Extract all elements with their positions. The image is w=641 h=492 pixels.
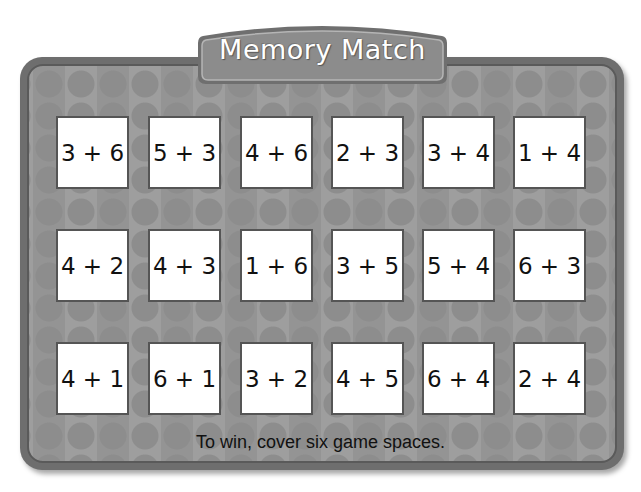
game-card[interactable]: 5 + 3 [148,116,221,189]
game-card[interactable]: 5 + 4 [422,229,495,302]
game-card[interactable]: 4 + 2 [56,229,129,302]
game-card[interactable]: 4 + 6 [240,116,313,189]
title-banner: Memory Match [197,22,448,85]
game-card[interactable]: 3 + 6 [56,116,129,189]
game-card[interactable]: 6 + 1 [148,342,221,415]
game-card[interactable]: 6 + 4 [422,342,495,415]
game-card[interactable]: 3 + 5 [331,229,404,302]
instructions-text: To win, cover six game spaces. [0,432,641,453]
game-card[interactable]: 1 + 6 [240,229,313,302]
game-card[interactable]: 4 + 3 [148,229,221,302]
game-card[interactable]: 2 + 3 [331,116,404,189]
game-card[interactable]: 2 + 4 [513,342,586,415]
game-card[interactable]: 3 + 2 [240,342,313,415]
game-card[interactable]: 4 + 1 [56,342,129,415]
game-title: Memory Match [197,34,448,65]
game-card[interactable]: 1 + 4 [513,116,586,189]
game-card[interactable]: 6 + 3 [513,229,586,302]
game-card[interactable]: 3 + 4 [422,116,495,189]
game-card[interactable]: 4 + 5 [331,342,404,415]
